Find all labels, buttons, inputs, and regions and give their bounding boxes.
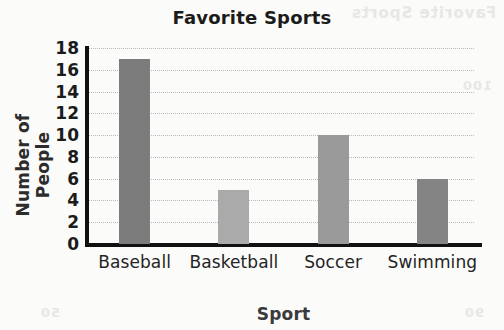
x-axis-tick-label: Basketball [184,252,283,272]
x-axis-tick-label: Swimming [383,252,482,272]
y-axis-tick-label: 8 [39,149,79,166]
y-axis-tick-label: 18 [39,40,79,57]
x-axis-tick-label: Baseball [85,252,184,272]
gridline [89,48,474,49]
y-axis-tick-label: 0 [39,236,79,253]
bar-chart: Favorite Sports 100 90 50 Favorite Sport… [0,0,504,330]
bar-swimming [417,179,448,244]
y-axis-tick-label: 16 [39,62,79,79]
bar-soccer [318,135,349,244]
x-axis-label: Sport [85,304,482,324]
x-axis-tick-label: Soccer [284,252,383,272]
y-axis-tick-label: 4 [39,192,79,209]
bar-basketball [218,190,249,244]
y-axis-tick-label: 2 [39,214,79,231]
chart-title: Favorite Sports [0,7,504,28]
plot-area [85,48,482,244]
y-axis-tick-label: 12 [39,105,79,122]
bar-baseball [119,59,150,244]
y-axis-tick-label: 14 [39,84,79,101]
y-axis-tick-label: 6 [39,171,79,188]
page-bleedthrough-bottom-left: 50 [40,305,60,320]
y-axis-tick-label: 10 [39,127,79,144]
